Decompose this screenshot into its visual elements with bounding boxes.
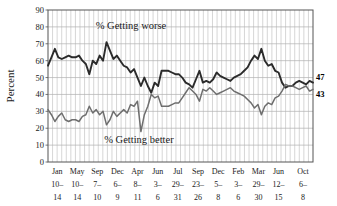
y-axis-tick-label: 20	[36, 123, 45, 133]
y-axis-tick-label: 30	[36, 106, 45, 116]
x-axis-tick-label-line-1: Mar	[252, 167, 266, 176]
y-axis-tick-label: 90	[36, 5, 45, 15]
x-axis-tick-label-line-3: 15	[275, 193, 283, 202]
x-axis-tick-label-line-1: Jun	[273, 167, 284, 176]
y-axis-tick-label: 40	[36, 89, 45, 99]
x-axis-tick-label-line-3: 10	[93, 193, 101, 202]
x-axis-tick-label-line-3: 31	[174, 193, 182, 202]
x-axis-tick-label-line-2: 8–	[134, 180, 143, 189]
y-axis-tick-label: 80	[36, 22, 45, 32]
worse-end-label: 47	[316, 72, 325, 82]
x-axis-tick-label-line-2: 10–	[51, 180, 64, 189]
x-axis-tick-label-line-3: 8	[216, 193, 220, 202]
x-axis-tick-label-line-1: Dec	[212, 167, 225, 176]
x-axis-tick-label-line-2: 29–	[252, 180, 265, 189]
y-axis-tick-label: 0	[40, 157, 44, 167]
x-axis-tick-label-line-3: 11	[134, 193, 142, 202]
x-axis-tick-label-line-1: Sep	[91, 167, 103, 176]
x-axis-tick-label-line-1: Sep	[192, 167, 204, 176]
x-axis-tick-label-line-1: May	[70, 167, 85, 176]
x-axis-tick-label-line-2: 5–	[214, 180, 223, 189]
worse-annotation: % Getting worse	[96, 20, 167, 31]
y-axis-tick-label: 70	[36, 39, 45, 49]
x-axis-tick-label-line-1: Oct	[297, 167, 309, 176]
chart-container: 0102030405060708090 Jan10–14May10–14Sep7…	[0, 0, 337, 206]
y-axis-tick-label: 10	[36, 140, 45, 150]
x-axis-tick-label-line-3: 14	[73, 193, 81, 202]
x-axis-tick-label-line-2: 6–	[299, 180, 308, 189]
better-end-label: 43	[316, 89, 325, 99]
better-annotation: % Getting better	[104, 134, 174, 145]
x-axis-tick-label-line-2: 29–	[172, 180, 185, 189]
x-axis-tick-labels: Jan10–14May10–14Sep7–10Dec6–9Apr8–11Jun3…	[51, 167, 309, 202]
x-axis-tick-label-line-3: 6	[236, 193, 240, 202]
x-axis-tick-label-line-1: Jun	[152, 167, 163, 176]
vertical-gridlines	[53, 10, 309, 162]
end-value-labels: 4743	[316, 72, 325, 100]
x-axis-tick-label-line-2: 7–	[93, 180, 102, 189]
x-axis-tick-label-line-3: 26	[194, 193, 202, 202]
x-axis-tick-label-line-1: Dec	[111, 167, 124, 176]
x-axis-tick-label-line-1: Feb	[232, 167, 244, 176]
x-axis-tick-label-line-2: 6–	[113, 180, 122, 189]
x-axis-tick-label-line-3: 9	[115, 193, 119, 202]
x-axis-tick-label-line-3: 8	[301, 193, 305, 202]
x-axis-tick-label-line-2: 12–	[273, 180, 286, 189]
y-axis-tick-labels: 0102030405060708090	[36, 5, 49, 167]
x-axis-tick-label-line-1: Apr	[131, 167, 144, 176]
x-axis-tick-label-line-3: 14	[53, 193, 61, 202]
x-axis-tick-label-line-1: Jul	[173, 167, 183, 176]
x-axis-tick-label-line-3: 6	[156, 193, 160, 202]
x-axis-tick-label-line-2: 10–	[71, 180, 84, 189]
x-axis-tick-label-line-2: 3–	[154, 180, 163, 189]
percent-trend-line-chart: 0102030405060708090 Jan10–14May10–14Sep7…	[0, 0, 337, 206]
x-axis-tick-label-line-2: 23–	[192, 180, 205, 189]
x-axis-tick-label-line-2: 3–	[234, 180, 243, 189]
x-axis-tick-label-line-1: Jan	[52, 167, 63, 176]
y-axis-tick-label: 60	[36, 56, 45, 66]
y-axis-title: Percent	[4, 70, 16, 103]
y-axis-tick-label: 50	[36, 73, 45, 83]
x-axis-tick-label-line-3: 30	[254, 193, 262, 202]
